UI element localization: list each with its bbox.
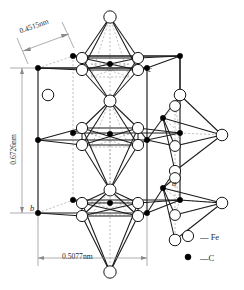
atom-c <box>160 185 165 190</box>
atom-fe <box>104 266 116 278</box>
legend-label-c: —C <box>200 253 214 263</box>
atom-fe <box>170 101 181 112</box>
atom-fe <box>104 95 116 107</box>
atom-fe <box>104 184 116 196</box>
atom-c <box>144 137 149 142</box>
atom-fe <box>132 122 143 133</box>
atom-c <box>107 131 112 136</box>
atom-fe <box>132 210 143 221</box>
dimension-label-height: 0.6726nm <box>9 115 18 185</box>
axis-label-b: b <box>30 203 34 213</box>
atom-c <box>70 197 75 202</box>
atom-c <box>177 197 182 202</box>
atom-fe <box>216 129 228 141</box>
atom-c <box>107 200 112 205</box>
atom-c <box>70 130 75 135</box>
atom-fe <box>170 141 181 152</box>
axis-label-a: a <box>172 178 176 188</box>
atom-fe <box>76 64 87 75</box>
atom-fe <box>132 197 143 208</box>
coordination-bond-lines <box>38 17 222 272</box>
atom-fe <box>169 234 181 246</box>
atom-fe <box>216 197 228 209</box>
crystal-structure-figure: 0.4515nm 0.6726nm 0.5077nm b c a — Fe —C <box>0 0 244 290</box>
atom-c <box>35 137 40 142</box>
dimension-label-width: 0.5077nm <box>62 252 93 261</box>
atom-c <box>177 53 182 58</box>
atom-c <box>144 210 149 215</box>
atom-c <box>107 61 112 66</box>
atom-fe <box>132 64 143 75</box>
atom-c <box>35 65 40 70</box>
atom-fe <box>76 210 87 221</box>
atom-fe <box>174 89 186 101</box>
atom-fe <box>132 52 143 63</box>
atom-c <box>70 53 75 58</box>
legend-label-fe: — Fe <box>200 232 219 242</box>
atom-c <box>35 210 40 215</box>
atom-fe <box>76 52 87 63</box>
structure-drawing <box>0 0 244 290</box>
legend-c-circle-icon <box>185 254 191 260</box>
atom-fe <box>132 139 143 150</box>
legend-symbols <box>182 230 193 260</box>
atom-c <box>177 130 182 135</box>
axis-label-c: c <box>148 64 152 74</box>
atom-fe <box>76 197 87 208</box>
atom-fe <box>170 210 181 221</box>
atom-fe <box>76 122 87 133</box>
atom-c <box>160 115 165 120</box>
legend-fe-circle-icon <box>182 230 193 241</box>
atom-fe <box>104 11 116 23</box>
atom-fe <box>76 139 87 150</box>
atom-fe-isolated <box>42 89 54 101</box>
